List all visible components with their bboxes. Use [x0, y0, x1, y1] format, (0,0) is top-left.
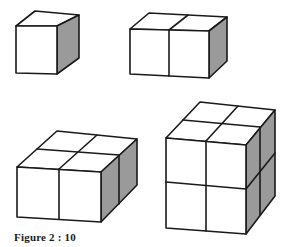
single-cube [16, 11, 79, 74]
two-cube-row [130, 13, 227, 78]
eight-cube-block [166, 102, 275, 234]
single-cube-front-face [16, 26, 57, 74]
figure-caption: Figure 2 : 10 [14, 231, 76, 243]
four-cube-slab [17, 131, 137, 222]
cube-figure [0, 0, 293, 247]
single-cube-side-face [57, 15, 79, 74]
